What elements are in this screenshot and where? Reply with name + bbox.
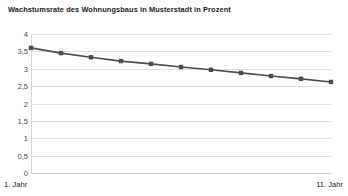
data-point-marker	[29, 46, 33, 50]
data-point-marker	[329, 80, 333, 84]
y-axis-tick-label: 4	[2, 30, 28, 39]
data-point-marker	[59, 51, 63, 55]
plot-area	[31, 34, 331, 173]
data-point-marker	[149, 62, 153, 66]
data-point-marker	[209, 68, 213, 72]
y-axis-tick-label: 0	[2, 169, 28, 178]
data-point-marker	[89, 55, 93, 59]
y-axis-tick-label: 0,5	[2, 151, 28, 160]
y-axis-tick-labels: 43,532,521,510,50	[0, 34, 28, 173]
y-axis-tick-label: 2,5	[2, 82, 28, 91]
y-axis-tick-label: 2	[2, 99, 28, 108]
data-point-marker	[269, 74, 273, 78]
gridline	[31, 173, 331, 174]
x-axis-label-first: 1. Jahr	[4, 180, 27, 189]
chart-title: Wachstumsrate des Wohnungsbaus in Muster…	[8, 5, 231, 14]
data-point-marker	[299, 77, 303, 81]
y-axis-tick-label: 1	[2, 134, 28, 143]
y-axis-tick-label: 3,5	[2, 47, 28, 56]
chart-figure: Wachstumsrate des Wohnungsbaus in Muster…	[0, 0, 348, 196]
data-series-line	[31, 34, 331, 173]
y-axis-tick-label: 3	[2, 64, 28, 73]
x-axis-label-last: 11. Jahr	[316, 180, 343, 189]
data-point-marker	[119, 59, 123, 63]
data-point-marker	[239, 71, 243, 75]
y-axis-tick-label: 1,5	[2, 116, 28, 125]
data-point-marker	[179, 65, 183, 69]
